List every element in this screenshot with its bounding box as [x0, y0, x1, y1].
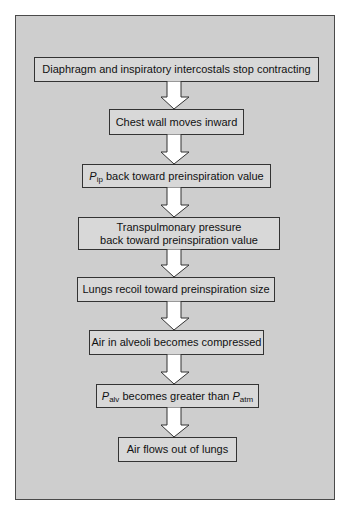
pressure-symbol: P: [89, 170, 96, 182]
down-arrow-icon: [160, 249, 190, 279]
step-label: Pip back toward preinspiration value: [89, 170, 263, 183]
step-label: Air flows out of lungs: [127, 443, 229, 456]
down-arrow-icon: [160, 81, 190, 111]
step-label: Chest wall moves inward: [116, 116, 238, 129]
step-label: Air in alveoli becomes compressed: [92, 336, 262, 349]
step-text: back toward preinspiration value: [103, 170, 264, 182]
down-arrow-icon: [160, 187, 190, 217]
step-label: Palv becomes greater than Patm: [102, 390, 253, 403]
step-lungs-recoil: Lungs recoil toward preinspiration size: [77, 277, 275, 302]
step-label: Diaphragm and inspiratory intercostals s…: [42, 63, 310, 76]
step-chest-wall-inward: Chest wall moves inward: [109, 109, 244, 135]
step-air-compressed: Air in alveoli becomes compressed: [89, 330, 264, 355]
step-label-line-1: Transpulmonary pressure: [117, 221, 242, 234]
down-arrow-icon: [160, 407, 190, 437]
pressure-subscript: alv: [109, 395, 119, 404]
step-label: Lungs recoil toward preinspiration size: [82, 283, 269, 296]
down-arrow-icon: [160, 134, 190, 164]
down-arrow-icon: [160, 301, 190, 331]
step-label-line-2: back toward preinspiration value: [100, 234, 258, 247]
step-text: becomes greater than: [119, 390, 232, 402]
step-transpulmonary-pressure: Transpulmonary pressure back toward prei…: [78, 217, 280, 250]
step-air-flows-out: Air flows out of lungs: [118, 437, 237, 462]
step-pip-back: Pip back toward preinspiration value: [82, 164, 271, 188]
step-stop-contracting: Diaphragm and inspiratory intercostals s…: [34, 57, 319, 82]
down-arrow-icon: [160, 354, 190, 384]
pressure-subscript: atm: [240, 395, 253, 404]
pressure-symbol: P: [233, 390, 240, 402]
step-palv-greater-patm: Palv becomes greater than Patm: [96, 384, 259, 408]
